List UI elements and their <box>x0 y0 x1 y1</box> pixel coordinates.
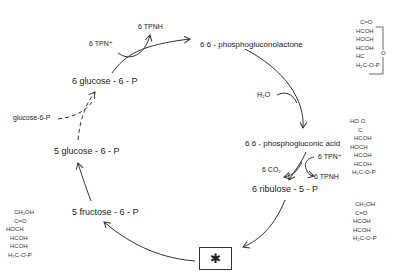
node-ribulose-5p: 6 ribulose - 5 - P <box>252 184 318 194</box>
structure-acid: HO O C HCOH HOCH HCOH HCOH H₂C-O-P <box>350 117 376 177</box>
node-glucose-6p-5: 5 glucose - 6 - P <box>54 146 120 156</box>
tpn-plus-label-1: 6 TPN⁺ <box>89 40 113 48</box>
tpnh-label-2: 6 TPNH <box>314 173 339 180</box>
tpnh-label-1: 6 TPNH <box>138 23 163 30</box>
arrow-ribulose-to-box <box>243 200 285 247</box>
node-phosphogluconolactone: 6 6 - phosphogluconolactone <box>200 40 303 49</box>
unknown-step-box: ✱ <box>199 247 232 270</box>
h2o-label: H₂O <box>257 91 270 98</box>
arrow-glucose5-to-glucose6-dashed <box>78 92 95 140</box>
node-glucose-6p-6: 6 glucose - 6 - P <box>72 76 138 86</box>
structure-fructose: CH₂OH C=O HOCH HCOH HCOH H₂C-O-P <box>6 208 34 259</box>
arrow-h2o <box>277 93 297 103</box>
structure-lactone: C=O HCOH HOCH HCOH HC H₂C-O-P <box>356 18 380 69</box>
node-glucose-6p-input: glucose-6-P <box>13 114 50 121</box>
co2-label: 6 CO₂ <box>262 166 281 173</box>
arrow-lactone-to-acid <box>245 49 303 128</box>
node-phosphogluconic-acid: 6 6 - phosphogluconic acid <box>245 139 340 148</box>
lactone-ring-oxygen: O <box>381 49 386 58</box>
arrow-fructose-to-glucose5 <box>78 163 91 201</box>
arrow-acid-to-ribulose <box>289 152 306 180</box>
asterisk-icon: ✱ <box>210 251 221 266</box>
arrow-box-to-fructose <box>104 222 195 261</box>
arrow-tpn-to-tpnh-2 <box>305 157 314 176</box>
structure-ribulose: CH₂OH C=O HCOH HCOH H₂C-O-P <box>353 200 377 243</box>
node-fructose-6p: 5 fructose - 6 - P <box>72 207 139 217</box>
tpn-plus-label-2: 6 TPN⁺ <box>318 153 342 161</box>
